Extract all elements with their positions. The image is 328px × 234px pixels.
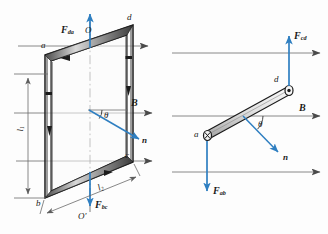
force-bc-label: Fbc — [95, 200, 108, 211]
vertex-c-label: c — [125, 151, 129, 160]
force-cd-label: Fcd — [294, 31, 307, 42]
current-loop-frame — [45, 25, 133, 198]
force-ab-label: Fab — [213, 186, 226, 197]
dimension-l1-label: l1 — [16, 126, 26, 131]
field-label-left: B — [131, 98, 138, 108]
dimension-l1 — [14, 74, 48, 198]
theta-label-right: θ — [258, 120, 262, 129]
vertex-b-label: b — [36, 199, 41, 208]
vertex-d-label: d — [127, 13, 132, 22]
vertex-a-label: a — [41, 41, 46, 50]
figure-canvas: Fda O a d c b B θ n l1 l2 Fbc O' Fcd d B… — [0, 0, 328, 234]
conductor-rod — [204, 86, 294, 141]
endpoint-d-label: d — [274, 75, 279, 84]
field-label-right: B — [299, 103, 306, 113]
normal-label-left: n — [142, 136, 147, 145]
current-out-of-page-symbol — [287, 89, 290, 92]
axis-origin-label: O — [85, 26, 92, 35]
force-da-label: Fda — [61, 25, 74, 36]
normal-label-right: n — [283, 153, 288, 162]
axis-origin-prime-label: O' — [78, 212, 86, 221]
diagram-svg — [0, 0, 328, 234]
endpoint-a-label: a — [194, 130, 199, 139]
theta-label-left: θ — [104, 111, 108, 120]
